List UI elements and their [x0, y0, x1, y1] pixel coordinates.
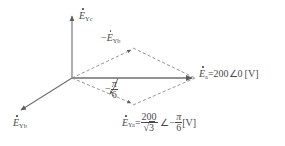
ea-angle-value: 0	[238, 68, 243, 79]
phasor-diagram-figure: EYc −EYb EYb Ea=200∠0[V] −π6 EYa=200√3∠−…	[0, 0, 285, 146]
axis-label-eyc: EYc	[79, 11, 93, 21]
axis-label-eyb: EYb	[13, 118, 27, 128]
eya-angle-denominator: 6	[175, 122, 182, 133]
neg-eyb-subscript: Yb	[113, 37, 121, 44]
vector-label-neg-eyb: −EYb	[101, 33, 121, 43]
rhombus-edge-upper	[133, 48, 195, 78]
eyc-subscript: Yc	[85, 15, 92, 22]
neg-eyb-symbol: E	[107, 33, 113, 43]
vector-label-eya: EYa=200√3∠−π6[V]	[122, 112, 196, 134]
angle-fraction: π6	[111, 79, 118, 101]
rhombus-edge-lower	[133, 78, 195, 105]
eya-angle-numerator: π	[175, 112, 182, 122]
eya-radicand: 3	[149, 121, 155, 133]
sqrt-icon: √3	[144, 123, 155, 133]
ea-subscript: a	[205, 73, 208, 80]
vector-line-eya	[72, 78, 131, 103]
eya-denominator: √3	[141, 122, 158, 133]
eyb-subscript: Yb	[19, 122, 27, 129]
angle-numerator: π	[111, 79, 118, 89]
eya-unit: [V]	[182, 118, 196, 128]
axis-line-eyb	[21, 78, 72, 110]
angle-annotation: −π6	[105, 79, 118, 101]
eya-subscript: Ya	[128, 122, 135, 128]
vector-line-neg-eyb	[72, 50, 131, 78]
eya-angle-symbol: ∠	[160, 118, 169, 128]
ea-magnitude: 200	[214, 68, 229, 79]
eya-angle-fraction: π6	[175, 112, 182, 134]
vector-label-ea: Ea=200∠0[V]	[199, 69, 259, 79]
eya-magnitude-fraction: 200√3	[141, 112, 158, 134]
ea-unit: [V]	[245, 68, 259, 79]
angle-denominator: 6	[111, 89, 118, 100]
ea-angle-symbol: ∠	[229, 68, 238, 79]
